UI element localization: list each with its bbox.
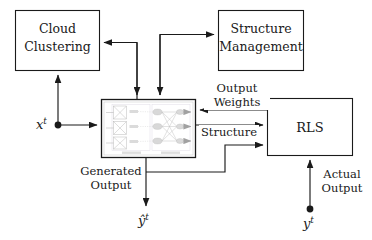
cloud-clustering-box <box>16 11 100 71</box>
inner-network-schematic <box>104 102 193 155</box>
predicted-output-label: ŷt <box>138 212 149 228</box>
structure-edge-label: Structure <box>199 125 259 139</box>
output-weights-label-line1: Output <box>204 81 270 95</box>
generated-output-label: Generated Output <box>78 164 144 193</box>
block-diagram-figure: Cloud Clustering Structure Management RL… <box>0 0 372 240</box>
actual-output-label-line1: Actual <box>316 167 368 181</box>
target-y-label: yt <box>303 215 314 231</box>
generated-output-label-line1: Generated <box>78 164 144 178</box>
target-y-superscript: t <box>310 215 314 225</box>
actual-output-label-line2: Output <box>316 181 368 195</box>
signal-dot-icon-x <box>55 122 62 129</box>
structure-edge-label-text: Structure <box>199 125 259 139</box>
output-weights-label: Output Weights <box>204 81 270 110</box>
predicted-output-superscript: t <box>145 212 149 222</box>
signal-dot-icon-y <box>307 206 314 213</box>
input-x-label: xt <box>36 116 47 132</box>
rls-box <box>268 99 353 156</box>
generated-output-label-line2: Output <box>78 178 144 192</box>
diagram-connections-layer <box>0 0 372 240</box>
output-weights-label-line2: Weights <box>204 95 270 109</box>
edge-network-to-cloud-clustering <box>104 43 137 100</box>
structure-management-box <box>219 11 304 71</box>
input-x-superscript: t <box>43 116 47 126</box>
actual-output-label: Actual Output <box>316 167 368 196</box>
